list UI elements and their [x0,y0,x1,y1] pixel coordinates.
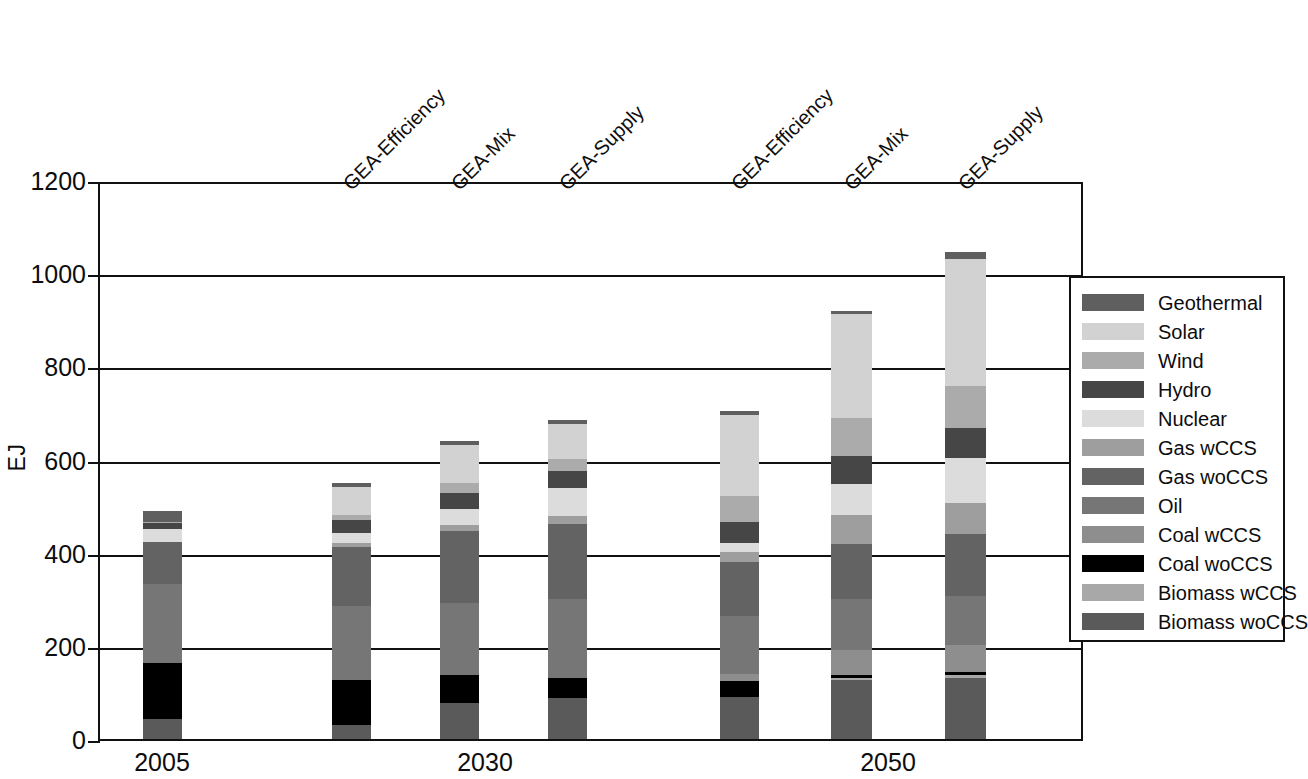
legend-swatch-gas-wccs [1082,439,1144,456]
legend-item-wind[interactable]: Wind [1071,346,1283,375]
bar-segment-gas-wccs [548,516,587,523]
plot-area [98,182,1083,741]
bar-segment-wind [831,418,872,456]
bar-gea-mix-2 [440,441,479,739]
bar-gea-supply-6 [945,252,986,739]
bar-segment-coal-woccs [440,675,479,703]
bar-segment-solar [831,314,872,417]
y-axis-tick-label: 400 [10,542,86,567]
legend-item-hydro[interactable]: Hydro [1071,375,1283,404]
bar-segment-nuclear [720,543,759,551]
scenario-label-gea-efficiency-3: GEA-Efficiency [727,84,838,195]
bar-segment-solar [440,445,479,483]
x-axis-group-label-2005: 2005 [102,748,222,777]
bar-segment-hydro [332,520,371,533]
y-axis-tick-label: 200 [10,635,86,660]
bar-segment-biomass-woccs [332,725,371,739]
legend-label: Gas wCCS [1158,438,1257,458]
legend-item-oil[interactable]: Oil [1071,491,1283,520]
legend-item-gas-woccs[interactable]: Gas woCCS [1071,462,1283,491]
legend-item-gas-wccs[interactable]: Gas wCCS [1071,433,1283,462]
bar-segment-coal-wccs [945,645,986,672]
bar-segment-gas-woccs [720,562,759,616]
legend-item-geothermal[interactable]: Geothermal [1071,288,1283,317]
legend-label: Solar [1158,322,1205,342]
y-axis-tick-label: 600 [10,449,86,474]
legend-label: Gas woCCS [1158,467,1268,487]
legend-item-biomass-wccs[interactable]: Biomass wCCS [1071,578,1283,607]
bar-2005-0 [143,511,182,739]
bar-gea-efficiency-1 [332,483,371,739]
legend-swatch-geothermal [1082,294,1144,311]
bar-segment-hydro [945,428,986,457]
bar-segment-coal-woccs [143,663,182,719]
bar-segment-oil [831,599,872,650]
bar-segment-coal-woccs [720,681,759,697]
bar-segment-gas-wccs [831,515,872,544]
legend-swatch-gas-woccs [1082,468,1144,485]
bar-segment-nuclear [945,458,986,504]
legend-swatch-coal-woccs [1082,555,1144,572]
bar-segment-coal-woccs [332,680,371,725]
bar-segment-biomass-woccs [945,678,986,739]
bar-segment-solar [720,415,759,496]
legend: GeothermalSolarWindHydroNuclearGas wCCSG… [1069,276,1285,642]
bar-segment-solar [332,487,371,515]
gridline [100,462,1081,464]
legend-item-coal-woccs[interactable]: Coal woCCS [1071,549,1283,578]
bar-segment-nuclear [548,488,587,516]
legend-label: Wind [1158,351,1204,371]
bar-segment-oil [143,584,182,662]
bar-gea-efficiency-4 [720,411,759,739]
gridline [100,275,1081,277]
bar-segment-oil [945,596,986,645]
bar-segment-gas-woccs [440,531,479,603]
legend-item-biomass-woccs[interactable]: Biomass woCCS [1071,607,1283,636]
bar-segment-gas-wccs [945,503,986,534]
bar-segment-wind [720,496,759,521]
bar-gea-supply-3 [548,420,587,739]
scenario-label-gea-supply-2: GEA-Supply [555,101,649,195]
scenario-label-gea-supply-5: GEA-Supply [954,101,1048,195]
legend-item-coal-wccs[interactable]: Coal wCCS [1071,520,1283,549]
legend-label: Geothermal [1158,293,1263,313]
bar-segment-solar [945,259,986,387]
bar-segment-coal-woccs [548,678,587,699]
bar-segment-nuclear [143,529,182,542]
legend-swatch-hydro [1082,381,1144,398]
y-axis: 020040060080010001200 [0,0,86,779]
bar-segment-nuclear [440,509,479,525]
bar-segment-biomass-woccs [720,697,759,739]
legend-swatch-coal-wccs [1082,526,1144,543]
bar-segment-solar [548,424,587,458]
legend-item-solar[interactable]: Solar [1071,317,1283,346]
gridline [100,555,1081,557]
legend-label: Nuclear [1158,409,1227,429]
bar-segment-biomass-woccs [440,703,479,739]
legend-label: Coal woCCS [1158,554,1272,574]
legend-label: Biomass wCCS [1158,583,1297,603]
legend-label: Biomass woCCS [1158,612,1308,632]
scenario-label-gea-efficiency-0: GEA-Efficiency [339,84,450,195]
bar-segment-gas-woccs [332,547,371,606]
bar-segment-gas-woccs [831,544,872,599]
legend-swatch-biomass-wccs [1082,584,1144,601]
y-axis-tick-label: 1000 [10,262,86,287]
bar-segment-oil [332,606,371,681]
bar-segment-hydro [720,522,759,544]
bar-segment-hydro [440,493,479,509]
bar-segment-coal-wccs [720,674,759,681]
legend-swatch-solar [1082,323,1144,340]
y-axis-tick-label: 0 [10,728,86,753]
bar-segment-oil [720,616,759,675]
x-axis-group-label-2030: 2030 [425,748,545,777]
bar-segment-geothermal [143,511,182,522]
legend-swatch-biomass-woccs [1082,613,1144,630]
legend-item-nuclear[interactable]: Nuclear [1071,404,1283,433]
legend-swatch-nuclear [1082,410,1144,427]
bar-segment-gas-woccs [548,524,587,599]
y-axis-tick-label: 1200 [10,169,86,194]
bar-segment-gas-woccs [945,534,986,596]
bar-gea-mix-5 [831,310,872,739]
